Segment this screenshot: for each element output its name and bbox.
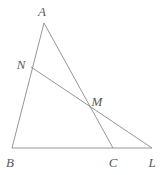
diagram-canvas: [0, 0, 164, 175]
geometry-figure: A N M B C L: [0, 0, 164, 175]
segment-group: [12, 23, 152, 148]
segment-ab: [12, 23, 44, 148]
vertex-label-n: N: [17, 58, 26, 71]
vertex-label-m: M: [92, 95, 103, 108]
vertex-label-c: C: [109, 156, 118, 169]
vertex-label-l: L: [148, 156, 155, 169]
vertex-label-a: A: [38, 5, 46, 18]
segment-ac: [44, 23, 113, 148]
vertex-label-b: B: [6, 156, 14, 169]
